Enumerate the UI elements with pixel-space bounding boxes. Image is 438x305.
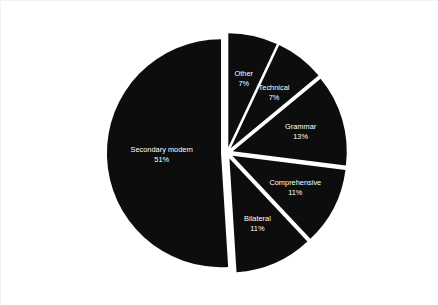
slice-label-value: 7% bbox=[238, 79, 249, 88]
pie-chart-svg: Other7%Technical7%Grammar13%Comprehensiv… bbox=[1, 1, 438, 305]
slice-label-name: Bilateral bbox=[244, 214, 271, 223]
slice-label-name: Secondary modern bbox=[131, 145, 193, 154]
pie-chart-figure: Other7%Technical7%Grammar13%Comprehensiv… bbox=[0, 0, 438, 305]
slice-label-value: 7% bbox=[269, 93, 280, 102]
slice-label-name: Technical bbox=[259, 83, 290, 92]
slice-label-name: Comprehensive bbox=[269, 178, 321, 187]
slice-label-name: Other bbox=[234, 69, 253, 78]
slice-label-name: Grammar bbox=[285, 122, 317, 131]
slice-label-value: 51% bbox=[154, 155, 169, 164]
slice-label-value: 13% bbox=[293, 132, 308, 141]
slice-label-value: 11% bbox=[250, 224, 265, 233]
slice-label-value: 11% bbox=[288, 188, 303, 197]
